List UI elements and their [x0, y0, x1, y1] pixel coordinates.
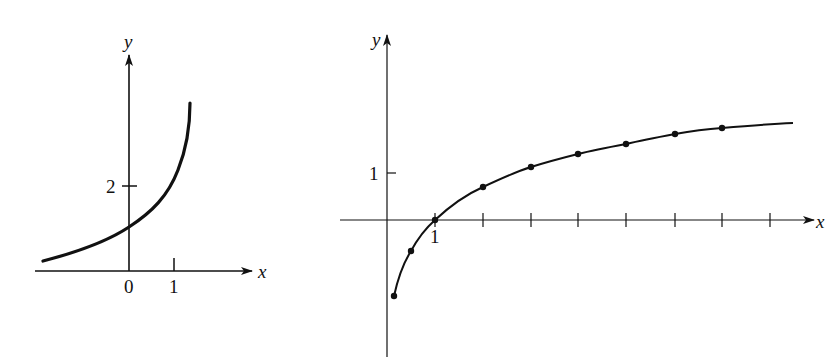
right-tick-label-y1: 1: [369, 163, 379, 184]
left-y-label: y: [122, 31, 133, 52]
left-curve: [43, 103, 190, 261]
left-tick-label-x0: 0: [124, 276, 134, 297]
figure: y x 2 0 1 y: [0, 0, 832, 360]
left-tick-label-x1: 1: [169, 276, 179, 297]
right-x-label: x: [815, 211, 825, 232]
right-data-points: [391, 125, 725, 299]
right-curve: [394, 123, 793, 296]
right-graph: y x 1 1: [340, 29, 825, 357]
right-y-label: y: [370, 29, 381, 50]
right-tick-label-x1: 1: [430, 226, 440, 247]
left-graph: y x 2 0 1: [35, 31, 267, 297]
left-x-label: x: [257, 261, 267, 282]
left-tick-label-y2: 2: [106, 176, 116, 197]
